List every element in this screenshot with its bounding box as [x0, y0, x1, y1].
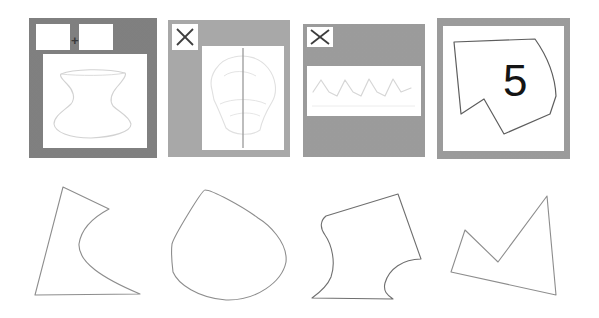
figure-root: +: [0, 0, 599, 318]
rounded-teardrop-shape-icon: [160, 178, 292, 304]
shape-concave-arrow: [30, 178, 155, 300]
numeral-five: 5: [503, 59, 527, 103]
concave-arrow-shape-icon: [30, 178, 155, 300]
faint-blob-with-axis-icon: [202, 46, 284, 150]
shape-s-curve-vase: [305, 183, 427, 303]
panel-3-canvas[interactable]: [307, 66, 421, 116]
chip-right[interactable]: [79, 24, 113, 50]
shape-zigzag-notch: [440, 183, 565, 303]
panel-x-zigzag[interactable]: [303, 24, 425, 157]
panel-two-chip-plus[interactable]: +: [29, 18, 157, 158]
x-mark-box-panel-3[interactable]: [307, 27, 333, 47]
panel-1-canvas[interactable]: [43, 54, 147, 148]
panel-4-canvas[interactable]: 5: [443, 26, 564, 151]
faint-hourglass-outline-icon: [43, 54, 147, 148]
close-icon: [307, 27, 333, 47]
shape-rounded-teardrop: [160, 178, 292, 304]
faint-zigzag-waveform-icon: [307, 66, 421, 116]
plus-icon: +: [71, 34, 79, 47]
panel-x-symmetry[interactable]: [168, 20, 290, 157]
zigzag-notch-polygon-icon: [440, 183, 565, 303]
close-icon: [172, 24, 198, 50]
panel-numeral-polygon[interactable]: 5: [437, 18, 570, 159]
x-mark-box-panel-2[interactable]: [172, 24, 198, 50]
chip-left[interactable]: [36, 24, 70, 50]
panel-2-canvas[interactable]: [202, 46, 284, 150]
s-curve-vase-shape-icon: [305, 183, 427, 303]
